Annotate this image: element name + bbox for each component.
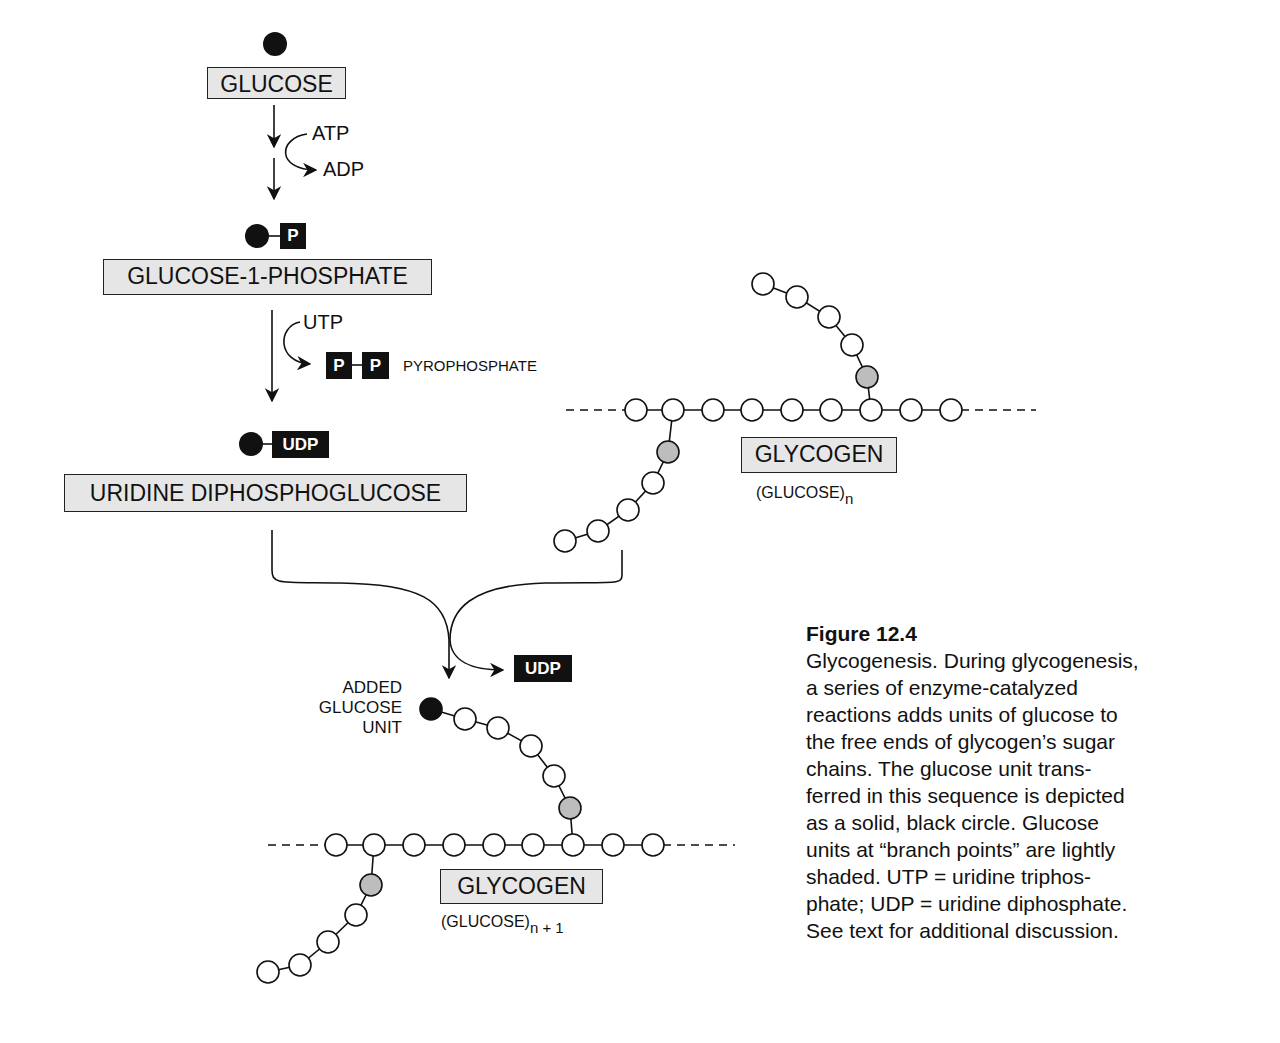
glycogen-n-label-box: GLYCOGEN <box>741 437 897 473</box>
added-label-line-1: ADDED <box>300 678 402 698</box>
caption-line: reactions adds units of glucose to <box>806 701 1226 728</box>
glucose-unit-icon <box>263 32 287 56</box>
formula-text: (GLUCOSE) <box>756 484 845 501</box>
added-glucose-unit-label: ADDED GLUCOSE UNIT <box>300 678 402 738</box>
udp-glucose-label-box: URIDINE DIPHOSPHOGLUCOSE <box>64 474 467 512</box>
caption-line: the free ends of glycogen’s sugar <box>806 728 1226 755</box>
caption-line: Glycogenesis. During glycogenesis, <box>806 647 1226 674</box>
udp-glucose-icon <box>239 432 272 456</box>
released-udp-tag: UDP <box>514 655 572 682</box>
figure-caption: Figure 12.4 Glycogenesis. During glycoge… <box>806 620 1226 944</box>
caption-line: units at “branch points” are lightly <box>806 836 1226 863</box>
glucose-1-phosphate-label-box: GLUCOSE-1-PHOSPHATE <box>103 259 432 295</box>
formula-subscript: n <box>845 490 853 507</box>
utp-label: UTP <box>303 311 343 334</box>
added-glucose-unit-icon <box>420 698 442 720</box>
phosphate-tag: P <box>280 223 306 249</box>
glucose-label-box: GLUCOSE <box>207 67 346 99</box>
glycogen-n-plus-1-structure <box>257 698 735 983</box>
adp-label: ADP <box>323 158 364 181</box>
step1-arrows <box>274 105 316 199</box>
caption-line: See text for additional discussion. <box>806 917 1226 944</box>
added-label-line-2: GLUCOSE <box>300 698 402 718</box>
caption-line: a series of enzyme-catalyzed <box>806 674 1226 701</box>
atp-label: ATP <box>312 122 349 145</box>
caption-line: ferred in this sequence is depicted <box>806 782 1226 809</box>
formula-subscript: n + 1 <box>530 919 564 936</box>
glycogen-n-plus-1-formula: (GLUCOSE)n + 1 <box>441 913 564 936</box>
udp-tag: UDP <box>272 431 329 458</box>
caption-line: phate; UDP = uridine diphosphate. <box>806 890 1226 917</box>
caption-line: as a solid, black circle. Glucose <box>806 809 1226 836</box>
glycogen-n-formula: (GLUCOSE)n <box>756 484 853 507</box>
glucose-phosphate-icon <box>245 224 285 248</box>
pyrophosphate-tag-2: P <box>362 352 389 379</box>
caption-line: shaded. UTP = uridine triphos- <box>806 863 1226 890</box>
pyrophosphate-tag-1: P <box>326 352 352 379</box>
caption-line: chains. The glucose unit trans- <box>806 755 1226 782</box>
pyrophosphate-label: PYROPHOSPHATE <box>403 357 537 374</box>
glycogen-n-structure <box>554 273 1036 552</box>
formula-text: (GLUCOSE) <box>441 913 530 930</box>
caption-title: Figure 12.4 <box>806 620 1226 647</box>
glycogen-n-plus-1-label-box: GLYCOGEN <box>440 869 603 904</box>
added-label-line-3: UNIT <box>300 718 402 738</box>
